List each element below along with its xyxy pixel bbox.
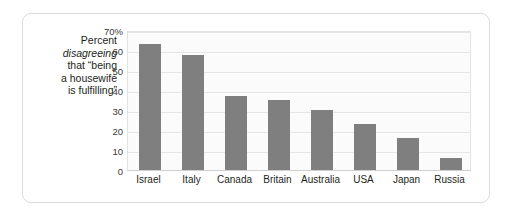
x-axis-tick-labels: IsraelItalyCanadaBritainAustraliaUSAJapa… bbox=[127, 174, 471, 192]
plot-area bbox=[127, 31, 471, 171]
x-axis-tick-label: Russia bbox=[422, 174, 478, 185]
bar-italy bbox=[182, 55, 204, 170]
bar-israel bbox=[139, 44, 161, 170]
bar-japan bbox=[397, 138, 419, 170]
bar-australia bbox=[311, 110, 333, 170]
y-axis-tick-labels: 70%6050403020100 bbox=[83, 31, 123, 171]
bar-russia bbox=[440, 158, 462, 170]
bar-slot bbox=[260, 32, 298, 170]
y-axis-tick-label: 50 bbox=[112, 66, 123, 77]
chart-figure: Percentdisagreeingthat “beinga housewife… bbox=[22, 13, 490, 203]
bar-usa bbox=[354, 124, 376, 170]
y-axis-tick-label: 60 bbox=[112, 46, 123, 57]
y-axis-tick-label: 70% bbox=[104, 26, 123, 37]
bar-slot bbox=[303, 32, 341, 170]
bar-series bbox=[128, 32, 470, 170]
bar-slot bbox=[131, 32, 169, 170]
bar-canada bbox=[225, 96, 247, 170]
bar-slot bbox=[217, 32, 255, 170]
y-axis-tick-label: 20 bbox=[112, 126, 123, 137]
bar-slot bbox=[174, 32, 212, 170]
bar-slot bbox=[389, 32, 427, 170]
bar-britain bbox=[268, 100, 290, 170]
y-axis-tick-label: 40 bbox=[112, 86, 123, 97]
y-axis-tick-label: 30 bbox=[112, 106, 123, 117]
y-axis-tick-label: 10 bbox=[112, 146, 123, 157]
bar-slot bbox=[346, 32, 384, 170]
bar-slot bbox=[432, 32, 470, 170]
